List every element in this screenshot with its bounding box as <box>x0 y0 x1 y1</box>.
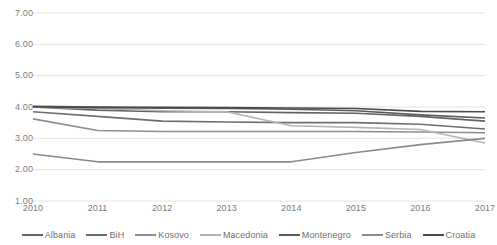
x-tick-label: 2011 <box>78 203 118 214</box>
legend-label-croatia: Croatia <box>446 230 476 240</box>
legend-swatch-montenegro <box>279 234 300 237</box>
legend-item-bih[interactable]: BiH <box>86 230 124 240</box>
y-tick-label: 5.00 <box>3 71 33 80</box>
y-axis: 1.002.003.004.005.006.007.00 <box>0 0 33 215</box>
legend-label-serbia: Serbia <box>385 230 412 240</box>
x-tick-label: 2013 <box>207 203 247 214</box>
y-tick-label: 7.00 <box>3 9 33 18</box>
x-tick-label: 2015 <box>336 203 376 214</box>
legend-swatch-albania <box>22 234 43 237</box>
legend-swatch-croatia <box>423 234 444 237</box>
legend-item-macedonia[interactable]: Macedonia <box>200 230 268 240</box>
series-line-kosovo <box>33 119 485 133</box>
series-line-serbia <box>33 138 485 162</box>
series-lines <box>33 13 485 201</box>
y-tick-label: 6.00 <box>3 40 33 49</box>
x-axis: 20102011201220132014201520162017 <box>33 203 485 219</box>
legend-label-albania: Albania <box>45 230 76 240</box>
legend-item-croatia[interactable]: Croatia <box>423 230 476 240</box>
legend-item-kosovo[interactable]: Kosovo <box>135 230 189 240</box>
x-tick-label: 2012 <box>142 203 182 214</box>
x-tick-label: 2017 <box>465 203 497 214</box>
y-tick-label: 2.00 <box>3 165 33 174</box>
y-tick-label: 4.00 <box>3 103 33 112</box>
legend-item-albania[interactable]: Albania <box>22 230 76 240</box>
legend-swatch-bih <box>86 234 107 237</box>
legend-label-macedonia: Macedonia <box>223 230 268 240</box>
legend-item-montenegro[interactable]: Montenegro <box>279 230 351 240</box>
line-chart: 1.002.003.004.005.006.007.00 20102011201… <box>0 0 497 245</box>
plot-area <box>33 13 485 201</box>
legend-label-bih: BiH <box>109 230 124 240</box>
legend-swatch-serbia <box>362 234 383 237</box>
x-tick-label: 2010 <box>13 203 53 214</box>
chart-legend: AlbaniaBiHKosovoMacedoniaMontenegroSerbi… <box>0 228 497 242</box>
x-tick-label: 2014 <box>271 203 311 214</box>
x-tick-label: 2016 <box>400 203 440 214</box>
legend-swatch-kosovo <box>135 234 156 237</box>
legend-swatch-macedonia <box>200 234 221 237</box>
legend-item-serbia[interactable]: Serbia <box>362 230 412 240</box>
legend-label-montenegro: Montenegro <box>302 230 351 240</box>
legend-label-kosovo: Kosovo <box>158 230 189 240</box>
y-tick-label: 3.00 <box>3 134 33 143</box>
